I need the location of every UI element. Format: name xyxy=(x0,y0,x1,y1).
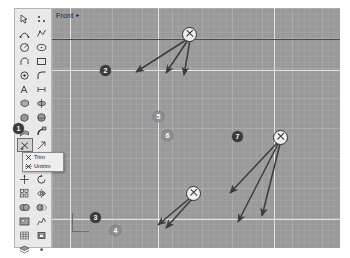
layer-icon[interactable] xyxy=(17,242,33,256)
sphere-solid-icon[interactable] xyxy=(34,110,50,124)
horizontal-axis-upper xyxy=(52,70,340,71)
rectangle-icon[interactable] xyxy=(34,54,50,68)
control-point-icon[interactable] xyxy=(34,12,50,26)
properties-icon[interactable] xyxy=(34,242,50,256)
analyze-icon[interactable] xyxy=(34,214,50,228)
mesh-icon[interactable] xyxy=(17,228,33,242)
viewport-label[interactable]: Front ▸ xyxy=(56,9,79,21)
viewport-label-text: Front xyxy=(56,12,73,19)
array-icon[interactable] xyxy=(17,186,33,200)
render-icon[interactable] xyxy=(17,214,33,228)
trim-tool-icon[interactable] xyxy=(17,138,33,152)
callout-marker-7: 7 xyxy=(232,131,243,142)
polyline-icon[interactable] xyxy=(34,26,50,40)
split-icon[interactable] xyxy=(34,138,50,152)
arc-icon[interactable] xyxy=(17,26,33,40)
boolean-difference-icon[interactable] xyxy=(34,200,50,214)
callout-marker-3: 3 xyxy=(90,212,101,223)
callout-marker-1: 1 xyxy=(13,123,24,134)
vertical-axis-right xyxy=(274,8,275,248)
trim-flyout[interactable]: Trim Untrim xyxy=(22,152,64,172)
vertical-axis-main xyxy=(158,8,159,248)
x-target-top[interactable] xyxy=(182,27,197,42)
fillet-icon[interactable] xyxy=(34,68,50,82)
block-icon[interactable] xyxy=(34,228,50,242)
dimension-icon[interactable] xyxy=(34,82,50,96)
revolve-solid-icon[interactable] xyxy=(34,96,50,110)
callout-marker-5: 5 xyxy=(153,111,164,122)
vertical-axis-left xyxy=(70,8,71,248)
curve-icon[interactable] xyxy=(17,54,33,68)
extrude-solid-icon[interactable] xyxy=(17,96,33,110)
callout-marker-6: 6 xyxy=(162,130,173,141)
rotate-icon[interactable] xyxy=(34,172,50,186)
mirror-icon[interactable] xyxy=(34,186,50,200)
callout-marker-4: 4 xyxy=(110,225,121,236)
circle-icon[interactable] xyxy=(17,40,33,54)
callout-marker-2: 2 xyxy=(100,65,111,76)
flyout-item-untrim-label: Untrim xyxy=(34,164,50,170)
boolean-union-icon[interactable] xyxy=(17,200,33,214)
x-target-middle[interactable] xyxy=(186,186,201,201)
cad-application-window: Front ▸ 1 2 3 4 5 6 7 xyxy=(0,0,350,258)
untrim-icon xyxy=(25,163,32,170)
surface-edge-line xyxy=(52,39,340,40)
trim-icon xyxy=(25,154,32,161)
ellipse-icon[interactable] xyxy=(34,40,50,54)
flyout-item-trim[interactable]: Trim xyxy=(23,153,63,162)
flyout-item-untrim[interactable]: Untrim xyxy=(23,162,63,171)
origin-axis-gizmo xyxy=(70,213,92,237)
box-solid-icon[interactable] xyxy=(17,110,33,124)
pointer-select-icon[interactable] xyxy=(17,12,33,26)
flyout-item-trim-label: Trim xyxy=(34,155,45,161)
x-target-right[interactable] xyxy=(273,130,288,145)
chevron-right-icon[interactable]: ▸ xyxy=(76,12,79,18)
surface-sweep-icon[interactable] xyxy=(34,124,50,138)
transform-move-icon[interactable] xyxy=(17,172,33,186)
point-icon[interactable] xyxy=(17,68,33,82)
text-object-icon[interactable] xyxy=(17,82,33,96)
